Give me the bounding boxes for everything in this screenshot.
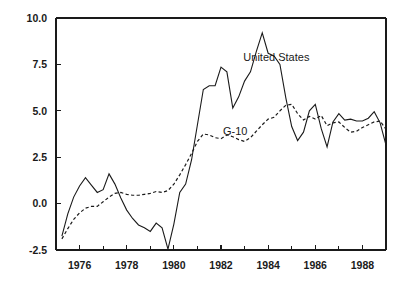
y-tick-label: 7.5 <box>32 58 47 70</box>
x-tick-label: 1988 <box>351 259 375 271</box>
series-annotation-united-states: United States <box>243 51 310 63</box>
x-tick-label: 1976 <box>68 259 92 271</box>
y-tick-label: 10.0 <box>27 12 48 24</box>
series-annotations: United StatesG-10 <box>223 51 310 137</box>
y-axis-tick-labels: 10.07.55.02.50.0-2.5 <box>27 12 48 256</box>
series-annotation-g-10: G-10 <box>223 125 247 137</box>
x-tick-label: 1980 <box>162 259 186 271</box>
x-axis-tick-labels: 1976197819801982198419861988 <box>68 259 374 271</box>
series-line-united-states <box>62 33 386 249</box>
line-chart: 10.07.55.02.50.0-2.5 1976197819801982198… <box>0 0 407 286</box>
axis-frame <box>56 18 386 250</box>
y-tick-label: 2.5 <box>32 151 47 163</box>
x-tick-label: 1984 <box>256 259 280 271</box>
x-tick-label: 1982 <box>209 259 233 271</box>
x-tick-label: 1978 <box>115 259 139 271</box>
chart-container: 10.07.55.02.50.0-2.5 1976197819801982198… <box>0 0 407 286</box>
axis-tick-marks <box>56 64 362 250</box>
y-tick-label: -2.5 <box>29 244 47 256</box>
y-tick-label: 5.0 <box>32 105 47 117</box>
y-tick-label: 0.0 <box>32 197 47 209</box>
x-tick-label: 1986 <box>304 259 328 271</box>
